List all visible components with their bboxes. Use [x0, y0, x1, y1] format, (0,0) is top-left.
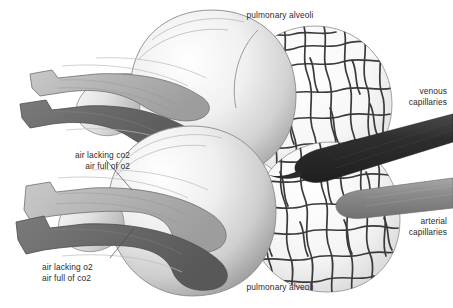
pulmonary-alveoli-diagram: pulmonary alveoli pulmonary alveoli veno…: [0, 0, 453, 308]
label-venous-capillaries: venous capillaries: [381, 86, 447, 107]
label-air-lacking-co2: air lacking co2 air full of o2: [34, 150, 130, 171]
label-air-lacking-o2: air lacking o2 air full of co2: [42, 262, 142, 283]
label-arterial-capillaries: arterial capillaries: [381, 216, 447, 237]
label-pulmonary-alveoli-bottom: pulmonary alveoli: [212, 282, 348, 293]
label-pulmonary-alveoli-top: pulmonary alveoli: [212, 10, 348, 21]
